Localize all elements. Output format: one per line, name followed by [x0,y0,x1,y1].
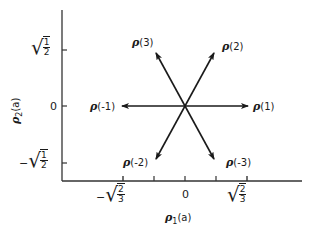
radicand: 23 [117,183,125,204]
rho-index: (-2) [130,157,148,168]
label-rho-1: ρ(1) [253,101,275,112]
rho-symbol: ρ [9,117,22,124]
vector-rho-3 [156,53,185,106]
x-tick-label-neg: −√23 [96,183,125,204]
rho-index: (-1) [97,101,115,112]
y-axis-title: ρ2(a) [10,98,24,124]
sqrt: √23 [105,183,124,204]
rho-index: (2) [229,41,243,52]
sqrt: √23 [227,183,246,204]
label-rho-minus1: ρ(-1) [90,101,115,112]
radicand: 12 [43,36,51,57]
denominator: 2 [41,161,47,170]
rho-index: (3) [139,37,153,48]
vector-rho-2 [185,53,214,106]
y-tick-label-zero: 0 [50,101,57,112]
denominator: 2 [44,48,50,57]
radicand: 12 [40,149,48,170]
x-axis-title: ρ1(a) [165,212,191,226]
rho-index: (-3) [233,157,251,168]
subscript: 2 [15,112,24,117]
label-rho-2: ρ(2) [222,41,244,52]
y-tick-label-pos: √12 [31,36,50,57]
vector-rho-minus3 [185,106,214,159]
x-tick-label-zero: 0 [182,189,189,200]
sign: − [96,191,105,204]
tick-text: 0 [182,188,189,201]
y-tick-label-neg: −√12 [19,149,48,170]
denominator: 3 [240,195,246,204]
radicand: 23 [239,183,247,204]
sqrt: √12 [31,36,50,57]
argument: (a) [177,212,191,223]
label-rho-3: ρ(3) [132,37,154,48]
sign: − [19,157,28,170]
rho-index: (1) [260,101,274,112]
label-rho-minus3: ρ(-3) [226,157,251,168]
vector-rho-minus2 [156,106,185,159]
denominator: 3 [118,195,124,204]
label-rho-minus2: ρ(-2) [123,157,148,168]
argument: (a) [10,98,21,112]
tick-text: 0 [50,100,57,113]
sqrt: √12 [28,149,47,170]
x-tick-label-pos: √23 [227,183,246,204]
